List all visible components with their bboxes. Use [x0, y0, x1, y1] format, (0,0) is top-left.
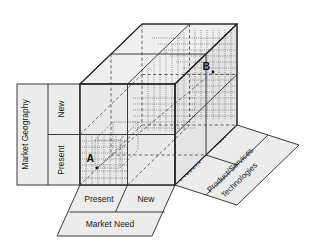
- left-axis-tick-new: New: [56, 100, 66, 118]
- left-axis-tick-present: Present: [56, 145, 66, 175]
- point-a-marker: [96, 167, 99, 170]
- bottom-axis-panel: Present New Market Need: [57, 185, 175, 236]
- left-axis-panel: Market Geography New Present: [17, 84, 80, 185]
- left-axis-label: Market Geography: [20, 99, 30, 170]
- bottom-axis-label: Market Need: [86, 219, 135, 229]
- point-b-label: B: [202, 60, 210, 72]
- growth-cube-diagram: .solid { stroke:#3a3a3a; stroke-width:1;…: [0, 0, 313, 241]
- point-a-label: A: [86, 152, 94, 164]
- point-b-marker: [212, 71, 215, 74]
- bottom-axis-tick-present: Present: [84, 194, 114, 204]
- bottom-axis-tick-new: New: [137, 194, 155, 204]
